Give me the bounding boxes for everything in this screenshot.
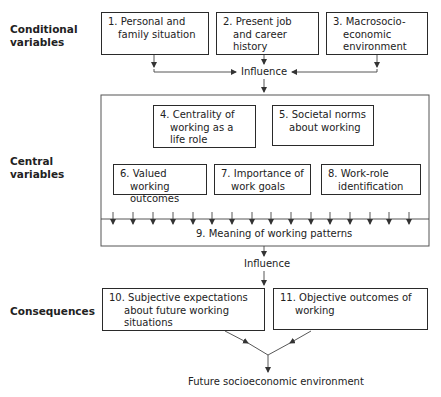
box-work-role-identification: 8. Work-role identification bbox=[321, 164, 421, 195]
future-socioeconomic-environment-label: Future socioeconomic environment bbox=[188, 376, 364, 388]
box-text: 6. Valued working outcomes bbox=[120, 168, 200, 206]
box-text: 2. Present job and career history bbox=[223, 16, 312, 54]
box-label: Macrosocio- economic environment bbox=[343, 16, 407, 52]
box-text: 10. Subjective expectations about future… bbox=[109, 292, 258, 330]
box-label: Personal and family situation bbox=[118, 16, 196, 40]
box-personal-family-situation: 1. Personal and family situation bbox=[101, 12, 209, 55]
box-valued-working-outcomes: 6. Valued working outcomes bbox=[113, 164, 207, 195]
box-label: Objective outcomes of working bbox=[295, 292, 412, 316]
box-label: Work-role identification bbox=[338, 168, 403, 192]
box-text: 8. Work-role identification bbox=[328, 168, 414, 193]
meaning-of-working-patterns-label: 9. Meaning of working patterns bbox=[196, 228, 352, 240]
box-text: 3. Macrosocio- economic environment bbox=[333, 16, 421, 54]
box-societal-norms: 5. Societal norms about working bbox=[272, 105, 374, 146]
box-text: 5. Societal norms about working bbox=[279, 109, 367, 134]
box-objective-outcomes: 11. Objective outcomes of working bbox=[273, 288, 428, 330]
box-number: 11. bbox=[280, 292, 296, 303]
box-label: Societal norms about working bbox=[289, 109, 366, 133]
box-number: 1. bbox=[108, 16, 118, 27]
box-present-job-career-history: 2. Present job and career history bbox=[216, 12, 319, 55]
box-label: Centrality of working as a life role bbox=[170, 109, 235, 145]
box-importance-of-work-goals: 7. Importance of work goals bbox=[214, 164, 311, 195]
box-number: 4. bbox=[160, 109, 170, 120]
box-label: Importance of work goals bbox=[231, 168, 304, 192]
box-text: 7. Importance of work goals bbox=[221, 168, 304, 193]
connector-lines bbox=[0, 0, 441, 397]
box-number: 8. bbox=[328, 168, 338, 179]
box-number: 5. bbox=[279, 109, 289, 120]
box-label: Present job and career history bbox=[233, 16, 292, 52]
influence-label-bottom: Influence bbox=[244, 258, 290, 270]
box-number: 6. bbox=[120, 168, 130, 179]
box-label: Valued working outcomes bbox=[130, 168, 179, 204]
influence-label-top: Influence bbox=[241, 66, 287, 78]
box-centrality-of-working: 4. Centrality of working as a life role bbox=[153, 105, 256, 148]
box-text: 4. Centrality of working as a life role bbox=[160, 109, 249, 147]
box-number: 7. bbox=[221, 168, 231, 179]
box-text: 11. Objective outcomes of working bbox=[280, 292, 421, 317]
box-number: 2. bbox=[223, 16, 233, 27]
box-text: 1. Personal and family situation bbox=[108, 16, 202, 41]
box-number: 10. bbox=[109, 292, 125, 303]
box-macrosocioeconomic-environment: 3. Macrosocio- economic environment bbox=[326, 12, 428, 55]
box-label: Subjective expectations about future wor… bbox=[124, 292, 248, 328]
box-subjective-expectations: 10. Subjective expectations about future… bbox=[102, 288, 265, 331]
box-number: 3. bbox=[333, 16, 343, 27]
